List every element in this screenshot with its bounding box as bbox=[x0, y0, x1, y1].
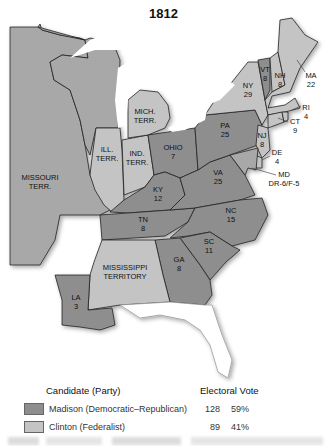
legend-candidate-header: Candidate (Party) bbox=[46, 385, 120, 396]
legend-pct: 41% bbox=[231, 422, 249, 432]
legend-votes: 128 bbox=[200, 404, 220, 414]
label-de: DE4 bbox=[272, 148, 282, 166]
region-florida bbox=[120, 302, 232, 378]
label-md: MDDR-6/F-5 bbox=[269, 170, 300, 188]
legend-row-clinton: Clinton (Federalist) 89 41% bbox=[24, 421, 209, 433]
legend-row-madison: Madison (Democratic–Republican) 128 59% bbox=[24, 403, 209, 415]
electoral-map: MISSOURITERR. ILL.TERR. IND.TERR. MICH.T… bbox=[0, 0, 327, 385]
label-pa: PA25 bbox=[220, 121, 229, 139]
legend-name: Madison (Democratic–Republican) bbox=[49, 404, 209, 414]
label-va: VA25 bbox=[213, 168, 222, 186]
madison-swatch bbox=[24, 403, 44, 415]
label-mich-terr: MICH.TERR. bbox=[134, 107, 157, 125]
region-ct bbox=[268, 112, 284, 128]
clinton-swatch bbox=[24, 421, 44, 433]
legend-vote-header: Electoral Vote bbox=[200, 385, 259, 396]
legend-votes: 89 bbox=[200, 422, 220, 432]
label-ma: MA22 bbox=[305, 71, 316, 89]
label-ny: NY29 bbox=[243, 81, 253, 99]
legend-pct: 59% bbox=[231, 404, 249, 414]
legend-name: Clinton (Federalist) bbox=[49, 422, 209, 432]
label-ri: RI4 bbox=[302, 103, 310, 121]
label-ct: CT9 bbox=[290, 117, 300, 135]
label-ky: KY12 bbox=[153, 185, 163, 203]
label-mississippi-terr: MISSISSIPPITERRITORY bbox=[103, 263, 148, 281]
cropped-caption-text bbox=[8, 437, 323, 445]
